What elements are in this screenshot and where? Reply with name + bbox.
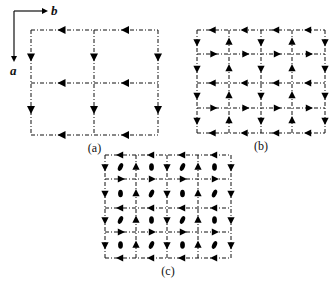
arrow-down-icon xyxy=(227,191,234,198)
arrow-left-icon xyxy=(178,151,185,158)
arrow-right-icon xyxy=(118,175,125,182)
arrow-left-icon xyxy=(147,204,154,211)
arrow-down-icon xyxy=(101,191,108,198)
arrow-up-icon xyxy=(225,38,232,45)
arrow-down-icon xyxy=(193,66,200,73)
arrow-right-icon xyxy=(210,50,217,57)
arrow-left-icon xyxy=(272,129,279,136)
tilted-ellipse-icon xyxy=(148,189,156,198)
arrow-right-icon xyxy=(306,50,313,57)
arrow-down-icon xyxy=(321,66,328,73)
arrow-up-icon xyxy=(194,241,201,248)
arrow-up-icon xyxy=(132,241,139,248)
panel-label: (b) xyxy=(254,139,268,153)
panel-b: (b) xyxy=(193,26,328,153)
upright-ellipse-icon xyxy=(118,190,123,198)
arrow-left-icon xyxy=(272,79,279,86)
arrow-up-icon xyxy=(225,91,232,98)
arrow-left-icon xyxy=(178,254,185,261)
arrow-left-icon xyxy=(147,151,154,158)
arrow-left-icon xyxy=(121,26,129,34)
arrow-right-icon xyxy=(242,104,249,111)
arrow-left-icon xyxy=(209,129,216,136)
arrow-left-icon xyxy=(209,26,216,33)
arrow-right-icon xyxy=(149,175,156,182)
arrow-up-icon xyxy=(132,163,139,170)
a-axis-label: a xyxy=(10,63,17,78)
arrow-up-icon xyxy=(288,64,295,71)
arrow-left-icon xyxy=(304,26,311,33)
arrow-left-icon xyxy=(116,151,123,158)
arrow-right-icon xyxy=(180,175,187,182)
upright-ellipse-icon xyxy=(180,190,185,198)
tilted-ellipse-icon xyxy=(117,162,125,171)
arrow-up-icon xyxy=(225,64,232,71)
panel-a: (a) xyxy=(27,26,162,155)
panel-c: (c) xyxy=(101,151,234,278)
arrow-right-icon xyxy=(306,104,313,111)
arrow-left-icon xyxy=(147,254,154,261)
arrow-right-icon xyxy=(149,228,156,235)
arrow-up-icon xyxy=(194,189,201,196)
arrow-up-icon xyxy=(132,216,139,223)
arrow-left-icon xyxy=(209,79,216,86)
arrow-right-icon xyxy=(212,175,219,182)
arrow-down-icon xyxy=(321,39,328,46)
arrow-down-icon xyxy=(154,54,162,62)
arrow-left-icon xyxy=(210,151,217,158)
tilted-ellipse-icon xyxy=(179,215,187,224)
arrow-down-icon xyxy=(193,93,200,100)
arrow-down-icon xyxy=(163,191,170,198)
arrow-up-icon xyxy=(194,216,201,223)
arrow-down-icon xyxy=(90,54,98,62)
lattice-diagram: b a (a)(b)(c) xyxy=(0,0,335,290)
tilted-ellipse-icon xyxy=(117,215,125,224)
arrow-down-icon xyxy=(257,66,264,73)
arrow-up-icon xyxy=(288,38,295,45)
tilted-ellipse-icon xyxy=(148,240,156,249)
arrow-down-icon xyxy=(163,164,170,171)
arrow-down-icon xyxy=(321,93,328,100)
tilted-ellipse-icon xyxy=(211,240,219,249)
arrow-left-icon xyxy=(272,26,279,33)
arrow-right-icon xyxy=(118,228,125,235)
arrow-left-icon xyxy=(121,131,129,139)
arrow-down-icon xyxy=(227,217,234,224)
arrow-down-icon xyxy=(90,106,98,114)
arrow-right-icon xyxy=(180,228,187,235)
arrow-down-icon xyxy=(163,217,170,224)
arrow-down-icon xyxy=(227,242,234,249)
arrow-down-icon xyxy=(163,242,170,249)
arrow-right-icon xyxy=(274,50,281,57)
a-axis-arrow-icon xyxy=(11,56,17,62)
arrow-right-icon xyxy=(274,104,281,111)
arrow-left-icon xyxy=(58,79,66,87)
arrow-down-icon xyxy=(193,118,200,125)
diagram-canvas: b a (a)(b)(c) xyxy=(0,0,335,290)
arrow-down-icon xyxy=(321,118,328,125)
arrow-left-icon xyxy=(121,79,129,87)
arrow-left-icon xyxy=(178,204,185,211)
arrow-right-icon xyxy=(212,228,219,235)
arrow-left-icon xyxy=(241,79,248,86)
arrow-down-icon xyxy=(101,217,108,224)
b-axis-arrow-icon xyxy=(42,8,48,14)
arrow-left-icon xyxy=(210,254,217,261)
upright-ellipse-icon xyxy=(149,216,154,224)
arrow-left-icon xyxy=(210,204,217,211)
arrow-up-icon xyxy=(288,91,295,98)
arrow-down-icon xyxy=(154,106,162,114)
arrow-left-icon xyxy=(58,131,66,139)
arrow-up-icon xyxy=(288,116,295,123)
arrow-down-icon xyxy=(27,54,35,62)
tilted-ellipse-icon xyxy=(211,189,219,198)
upright-ellipse-icon xyxy=(180,241,185,249)
arrow-down-icon xyxy=(257,118,264,125)
arrow-left-icon xyxy=(58,26,66,34)
arrow-left-icon xyxy=(241,26,248,33)
arrow-left-icon xyxy=(304,129,311,136)
arrow-right-icon xyxy=(210,104,217,111)
arrow-left-icon xyxy=(304,79,311,86)
tilted-ellipse-icon xyxy=(179,162,187,171)
arrow-left-icon xyxy=(116,204,123,211)
